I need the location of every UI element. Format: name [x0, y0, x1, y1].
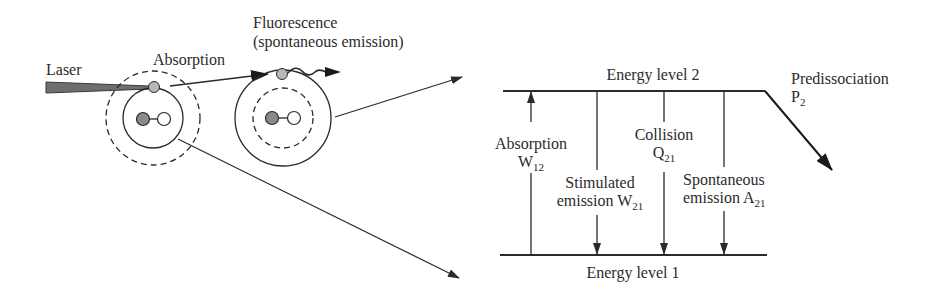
electron	[277, 69, 288, 80]
predissociation-label: Predissociation P2	[791, 70, 889, 106]
absorption-process-name: Absorption	[486, 135, 576, 153]
atom-dark	[137, 113, 150, 126]
spontaneous-emission-line1: Spontaneous	[683, 171, 766, 189]
laser-label: Laser	[46, 61, 82, 79]
predissociation-symbol: P2	[791, 88, 889, 106]
collision-label: Collision Q21	[624, 126, 704, 162]
spontaneous-emission-label: Spontaneous emission A21	[683, 171, 766, 207]
stimulated-emission-label: Stimulated emission W21	[545, 174, 655, 210]
laser-beam	[46, 82, 150, 93]
predissociation-name: Predissociation	[791, 70, 889, 88]
atom-light	[288, 112, 301, 125]
absorption-process-label: Absorption W12	[486, 135, 576, 171]
atom-dark	[266, 112, 279, 125]
stimulated-emission-line1: Stimulated	[545, 174, 655, 192]
stimulated-emission-line2: emission W21	[545, 192, 655, 210]
absorption-label: Absorption	[153, 51, 225, 69]
inner-solid-orbit	[123, 88, 183, 148]
absorption-process-symbol: W12	[486, 153, 576, 171]
molecule-fluorescence	[235, 69, 331, 167]
spontaneous-emission-subtitle: (spontaneous emission)	[253, 33, 404, 51]
molecule-absorption	[106, 71, 200, 165]
fluorescence-label: Fluorescence	[253, 14, 337, 32]
pointer-arrow-lower	[178, 139, 459, 278]
energy-level-1-label: Energy level 1	[563, 264, 703, 282]
pointer-arrow-upper	[335, 77, 462, 117]
electron	[149, 82, 160, 93]
collision-name: Collision	[624, 126, 704, 144]
collision-symbol: Q21	[624, 144, 704, 162]
energy-level-2-label: Energy level 2	[583, 66, 723, 84]
atom-light	[158, 113, 171, 126]
laser-induced-fluorescence-diagram	[0, 0, 952, 304]
spontaneous-emission-line2: emission A21	[683, 189, 766, 207]
